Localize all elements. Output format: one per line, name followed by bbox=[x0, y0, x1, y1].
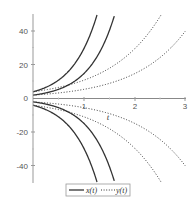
y-curve bbox=[33, 31, 185, 95]
y-tick-label: -20 bbox=[16, 128, 28, 137]
x-curve bbox=[33, 16, 114, 95]
x-axis-label: t bbox=[107, 112, 110, 122]
x-tick-label: 1 bbox=[82, 102, 87, 111]
legend-label-x: x(t) bbox=[85, 186, 97, 195]
y-tick-label: 20 bbox=[19, 61, 28, 70]
x-curve bbox=[33, 15, 97, 92]
y-tick-label: 40 bbox=[19, 27, 28, 36]
legend: x(t) y(t) bbox=[66, 184, 130, 196]
legend-label-y: y(t) bbox=[115, 186, 127, 195]
x-curve bbox=[33, 102, 114, 181]
y-curve bbox=[33, 105, 161, 182]
y-curve bbox=[33, 15, 161, 92]
y-tick-label: -40 bbox=[16, 162, 28, 171]
x-curve bbox=[33, 105, 97, 182]
y-tick-label: 0 bbox=[24, 94, 29, 103]
line-chart: 40 20 0 -20 -40 1 2 3 t x(t) y(t) bbox=[0, 0, 194, 210]
x-tick-label: 3 bbox=[183, 102, 188, 111]
x-tick-label: 2 bbox=[133, 102, 138, 111]
